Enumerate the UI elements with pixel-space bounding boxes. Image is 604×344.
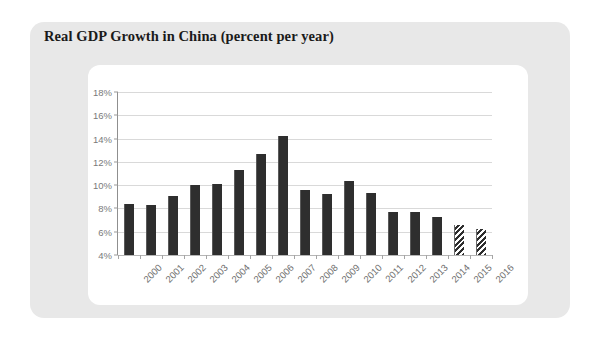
x-axis-tick-label: 2010	[361, 262, 384, 285]
bar	[146, 205, 156, 255]
bar	[168, 196, 178, 255]
bar	[344, 181, 354, 256]
x-axis-tick-label: 2011	[383, 262, 405, 284]
x-axis-tick-label: 2015	[471, 262, 494, 285]
figure-root: Real GDP Growth in China (percent per ye…	[0, 0, 604, 344]
bar	[234, 170, 244, 255]
x-axis-tick-label: 2004	[229, 262, 252, 285]
x-axis-tick-label: 2014	[449, 262, 472, 285]
x-axis-tick-label: 2012	[405, 262, 428, 285]
x-axis-tick-label: 2001	[163, 262, 186, 285]
y-axis-tick-label: 4%	[98, 250, 112, 261]
x-axis-tick-label: 2006	[273, 262, 296, 285]
x-axis-tick-label: 2016	[493, 262, 516, 285]
bar	[124, 204, 134, 255]
y-axis-tick-label: 12%	[93, 156, 112, 167]
bar	[388, 212, 398, 255]
bar	[454, 225, 464, 255]
x-axis-tick-mark	[492, 255, 493, 259]
x-axis-labels: 2000200120022003200420052006200720082009…	[118, 255, 492, 295]
x-axis-tick-label: 2002	[185, 262, 208, 285]
bar	[366, 193, 376, 255]
x-axis-tick-label: 2003	[207, 262, 230, 285]
y-axis-tick-label: 10%	[93, 180, 112, 191]
x-axis-tick-label: 2008	[317, 262, 340, 285]
bar-series	[118, 92, 492, 255]
chart-title: Real GDP Growth in China (percent per ye…	[44, 28, 334, 45]
bar	[300, 190, 310, 255]
y-axis-tick-label: 14%	[93, 133, 112, 144]
bar	[410, 212, 420, 255]
x-axis-tick-label: 2005	[251, 262, 274, 285]
y-axis-tick-label: 6%	[98, 226, 112, 237]
x-axis-tick-label: 2009	[339, 262, 362, 285]
y-axis-tick-label: 16%	[93, 110, 112, 121]
y-axis-tick-label: 8%	[98, 203, 112, 214]
bar	[212, 184, 222, 255]
x-axis-tick-label: 2000	[141, 262, 164, 285]
bar	[322, 194, 332, 255]
x-axis-tick-label: 2007	[295, 262, 318, 285]
bar	[278, 136, 288, 255]
plot-area: 4%6%8%10%12%14%16%18% 200020012002200320…	[118, 92, 492, 255]
bar	[476, 229, 486, 255]
y-axis-tick-label: 18%	[93, 87, 112, 98]
bar	[256, 154, 266, 255]
bar	[432, 217, 442, 255]
bar	[190, 185, 200, 255]
x-axis-tick-label: 2013	[427, 262, 450, 285]
plot-card: 4%6%8%10%12%14%16%18% 200020012002200320…	[88, 65, 528, 305]
